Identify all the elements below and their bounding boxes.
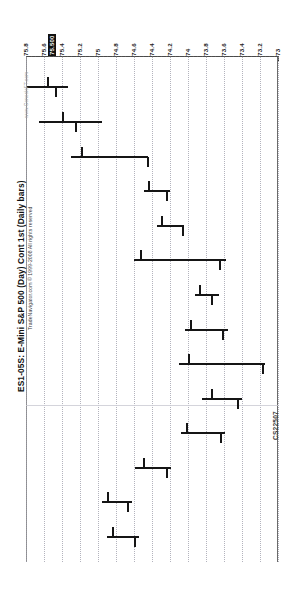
grid-line (206, 57, 208, 562)
ohlc-open-tick (47, 77, 49, 87)
price-axis-tick-label: 73.6 (220, 43, 227, 56)
grid-line (116, 57, 118, 562)
price-axis-tick-label: 73 (274, 49, 281, 56)
grid-line (134, 57, 136, 562)
price-axis-tick-label: 73.8 (202, 43, 209, 56)
ohlc-open-tick (186, 423, 188, 433)
ohlc-close-tick (262, 364, 264, 374)
ohlc-open-tick (188, 354, 190, 364)
price-axis-tick-label: 74.8 (112, 43, 119, 56)
grid-line (98, 57, 100, 562)
ohlc-close-tick (134, 537, 136, 547)
ohlc-high-low-line (179, 363, 265, 365)
price-axis-tick-label: 74.2 (166, 43, 173, 56)
ohlc-open-tick (143, 458, 145, 468)
price-axis-tick-label: 75.2 (76, 43, 83, 56)
grid-line (44, 57, 46, 562)
price-axis-tick-label: 75 (94, 49, 101, 56)
ohlc-close-tick (237, 399, 239, 409)
ohlc-open-tick (62, 112, 64, 122)
attribution-text: TradeNavigator.com © 1999-2008 All right… (27, 206, 33, 330)
grid-line (260, 57, 262, 562)
grid-line (242, 57, 244, 562)
ohlc-close-tick (222, 330, 224, 340)
chart-page: 75.875.675.475.27574.874.674.474.27473.8… (0, 0, 307, 596)
ohlc-open-tick (161, 216, 163, 226)
grid-line (62, 57, 64, 562)
ohlc-open-tick (211, 389, 213, 399)
ohlc-close-tick (219, 260, 221, 270)
price-axis-tick-label: 73.4 (238, 43, 245, 56)
ohlc-high-low-line (134, 259, 226, 261)
price-axis-tick-label: 75.6 (40, 43, 47, 56)
ohlc-close-tick (55, 87, 57, 97)
plot-area (26, 57, 278, 562)
grid-line (170, 57, 172, 562)
ohlc-open-tick (190, 320, 192, 330)
chart-title: ES1-05S: E-Mini S&P 500 (Day) Cont 1st (… (16, 180, 26, 392)
price-axis-tick-label: 75.8 (22, 43, 29, 56)
price-axis-tick-label: 74 (184, 49, 191, 56)
ohlc-close-tick (166, 468, 168, 478)
grid-line (188, 57, 190, 562)
ohlc-close-tick (166, 191, 168, 201)
grid-line (80, 57, 82, 562)
ohlc-open-tick (199, 285, 201, 295)
price-axis-tick-label: 74.4 (148, 43, 155, 56)
ohlc-open-tick (112, 527, 114, 537)
price-axis-labels: 75.875.675.475.27574.874.674.474.27473.8… (26, 28, 278, 56)
ohlc-close-tick (147, 157, 149, 167)
page-code-label: CS22507 (272, 411, 279, 440)
chart-sheet: 75.875.675.475.27574.874.674.474.27473.8… (0, 0, 307, 596)
ohlc-open-tick (148, 181, 150, 191)
price-axis-tick-label: 73.2 (256, 43, 263, 56)
ohlc-open-tick (81, 147, 83, 157)
grid-line (152, 57, 154, 562)
ohlc-close-tick (211, 295, 213, 305)
ohlc-close-tick (182, 226, 184, 236)
grid-line (278, 57, 280, 562)
ohlc-open-tick (140, 250, 142, 260)
grid-line (224, 57, 226, 562)
price-axis-tick-label: 74.6 (130, 43, 137, 56)
ohlc-close-tick (75, 122, 77, 132)
current-price-label: 75.500 (48, 34, 56, 56)
ohlc-close-tick (220, 433, 222, 443)
price-axis-tick-label: 75.4 (58, 43, 65, 56)
horizontal-divider (26, 405, 278, 406)
ohlc-high-low-line (39, 121, 103, 123)
ohlc-close-tick (127, 502, 129, 512)
ohlc-open-tick (107, 492, 109, 502)
watermark-text: www.GenesisFT.com (24, 72, 29, 118)
